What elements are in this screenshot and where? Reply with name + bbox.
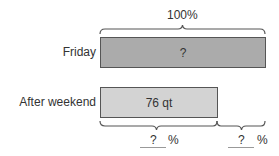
top-label: 100% [167,8,198,22]
unit-right: % [257,133,268,147]
friday-bar-value: ? [180,46,187,60]
answer-line-right[interactable] [228,147,254,148]
bottom-brace-right [217,121,265,130]
blank-right: ? [238,133,245,147]
row-label-after-weekend: After weekend [19,95,96,109]
answer-line-left[interactable] [140,147,166,148]
top-brace [100,25,265,34]
after-weekend-bar-value: 76 qt [146,96,173,110]
blank-left: ? [150,133,157,147]
bottom-brace-left [100,121,217,130]
after-weekend-bar: 76 qt [100,87,218,118]
unit-left: % [168,133,179,147]
friday-bar: ? [100,37,266,68]
row-label-friday: Friday [63,45,96,59]
